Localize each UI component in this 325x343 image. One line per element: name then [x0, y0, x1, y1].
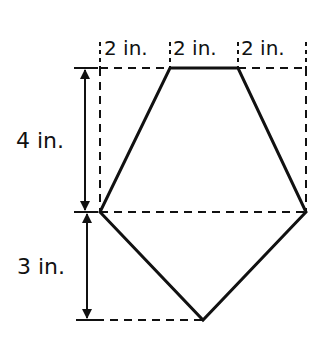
dashed-guides [96, 42, 306, 320]
top-label-2: 2 in. [173, 36, 217, 60]
pentagon-diagram: 2 in. 2 in. 2 in. 4 in. 3 in. [0, 0, 325, 343]
pentagon-outline [100, 68, 306, 320]
dimension-arrows [74, 68, 98, 320]
top-label-3: 2 in. [241, 36, 285, 60]
top-label-1: 2 in. [104, 36, 148, 60]
side-label-upper: 4 in. [16, 128, 64, 153]
side-label-lower: 3 in. [17, 254, 65, 279]
